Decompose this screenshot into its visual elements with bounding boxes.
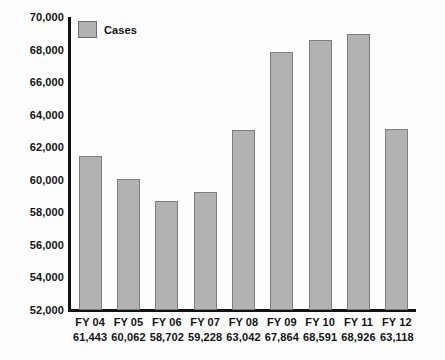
x-axis-category-label: FY 06 (148, 315, 186, 330)
bar-slot (117, 17, 140, 310)
bar-fy-09 (270, 52, 293, 310)
bar-slot (194, 17, 217, 310)
y-axis-tick-labels: 70,00068,00066,00064,00062,00060,00058,0… (0, 0, 64, 360)
y-axis-tick-60000: 60,000 (30, 174, 64, 186)
x-axis-value-label: 68,926 (339, 330, 377, 345)
y-axis-tick-54000: 54,000 (30, 271, 64, 283)
y-axis-tick-58000: 58,000 (30, 206, 64, 218)
bar-fy-07 (194, 192, 217, 310)
y-axis-tick-52000: 52,000 (30, 304, 64, 316)
x-axis-value-label: 59,228 (186, 330, 224, 345)
x-axis-label-group: FY 1263,118 (378, 315, 416, 345)
x-axis-label-group: FY 0560,062 (109, 315, 147, 345)
plot-area (71, 17, 416, 310)
bar-slot (79, 17, 102, 310)
bar-fy-05 (117, 179, 140, 310)
x-axis-category-label: FY 09 (263, 315, 301, 330)
bar-slot (347, 17, 370, 310)
bar-slot (232, 17, 255, 310)
bar-slot (155, 17, 178, 310)
bar-fy-08 (232, 130, 255, 310)
x-axis-category-label: FY 10 (301, 315, 339, 330)
bar-slot (385, 17, 408, 310)
bar-fy-11 (347, 34, 370, 310)
bar-fy-06 (155, 201, 178, 310)
x-axis-tick-labels: FY 0461,443FY 0560,062FY 0658,702FY 0759… (71, 315, 416, 360)
x-axis-value-label: 58,702 (148, 330, 186, 345)
y-axis-tick-64000: 64,000 (30, 109, 64, 121)
x-axis-category-label: FY 11 (339, 315, 377, 330)
x-axis-category-label: FY 08 (224, 315, 262, 330)
x-axis-category-label: FY 04 (71, 315, 109, 330)
x-axis-category-label: FY 12 (378, 315, 416, 330)
x-axis-value-label: 67,864 (263, 330, 301, 345)
y-axis-tick-62000: 62,000 (30, 141, 64, 153)
x-axis-label-group: FY 0658,702 (148, 315, 186, 345)
bar-fy-12 (385, 129, 408, 310)
x-axis-label-group: FY 0863,042 (224, 315, 262, 345)
x-axis-value-label: 63,118 (378, 330, 416, 345)
x-axis-label-group: FY 0967,864 (263, 315, 301, 345)
bar-chart: Cases 70,00068,00066,00064,00062,00060,0… (0, 0, 445, 360)
y-axis-tick-56000: 56,000 (30, 239, 64, 251)
bar-fy-04 (79, 156, 102, 310)
x-axis-label-group: FY 1068,591 (301, 315, 339, 345)
x-axis-label-group: FY 0759,228 (186, 315, 224, 345)
bar-fy-10 (309, 40, 332, 310)
x-axis-label-group: FY 0461,443 (71, 315, 109, 345)
y-axis-tick-68000: 68,000 (30, 44, 64, 56)
x-axis-value-label: 68,591 (301, 330, 339, 345)
x-axis-value-label: 63,042 (224, 330, 262, 345)
bar-slot (309, 17, 332, 310)
y-axis-tick-70000: 70,000 (30, 11, 64, 23)
x-axis-value-label: 60,062 (109, 330, 147, 345)
x-axis-category-label: FY 07 (186, 315, 224, 330)
x-axis-value-label: 61,443 (71, 330, 109, 345)
y-axis-tick-66000: 66,000 (30, 76, 64, 88)
bar-slot (270, 17, 293, 310)
x-axis-label-group: FY 1168,926 (339, 315, 377, 345)
x-axis-category-label: FY 05 (109, 315, 147, 330)
